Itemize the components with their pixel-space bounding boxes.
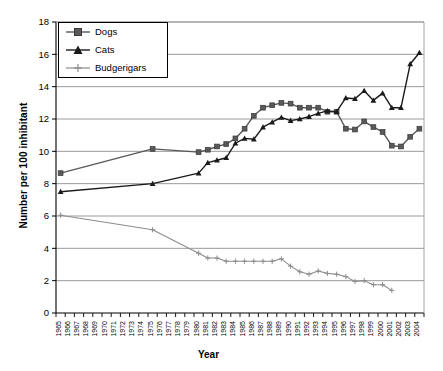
legend-item-dogs: Dogs <box>59 23 167 41</box>
x-tick-label: 1969 <box>91 321 98 337</box>
legend-item-budgerigars: Budgerigars <box>59 59 167 77</box>
x-tick-label: 1965 <box>55 321 62 337</box>
data-point <box>389 288 394 293</box>
x-tick-label: 1967 <box>73 321 80 337</box>
data-point <box>297 105 302 110</box>
x-tick-label: 2002 <box>395 321 402 337</box>
data-point <box>196 150 201 155</box>
cats-series-key-icon <box>65 43 91 57</box>
data-point <box>362 278 367 283</box>
x-tick-label: 1987 <box>257 321 264 337</box>
data-point <box>233 136 238 141</box>
x-tick-label: 1982 <box>211 321 218 337</box>
x-tick-label: 2001 <box>386 321 393 337</box>
y-tick-label: 16 <box>38 49 49 60</box>
data-point <box>399 144 404 149</box>
x-tick-label: 1971 <box>110 321 117 337</box>
x-tick-label: 1996 <box>340 321 347 337</box>
x-tick-label: 1991 <box>294 321 301 337</box>
legend-label-cats: Cats <box>95 45 115 55</box>
data-point <box>380 90 386 95</box>
x-tick-label: 1990 <box>285 321 292 337</box>
y-tick-label: 12 <box>38 113 49 124</box>
data-point <box>150 227 155 232</box>
data-point <box>233 259 238 264</box>
data-point <box>352 279 357 284</box>
x-axis-title-wrap: Year <box>0 349 443 360</box>
series-line <box>61 103 420 173</box>
x-tick-label: 1973 <box>128 321 135 337</box>
budgerigars-series-key-icon <box>65 61 91 75</box>
data-point <box>306 272 311 277</box>
data-point <box>215 144 220 149</box>
data-point <box>279 114 285 119</box>
line-chart: 024681012141618 196519661967196819691970… <box>0 0 443 371</box>
y-tick-label: 8 <box>44 178 49 189</box>
data-point <box>242 259 247 264</box>
x-tick-label: 1970 <box>101 321 108 337</box>
y-axis-title: Number per 100 inhibitant <box>18 81 29 251</box>
data-point <box>288 101 293 106</box>
dogs-series-key-icon <box>65 25 91 39</box>
x-tick-label: 1978 <box>174 321 181 337</box>
series-dogs <box>58 100 422 175</box>
data-point <box>261 105 266 110</box>
data-point <box>58 171 63 176</box>
x-tick-label: 1997 <box>349 321 356 337</box>
x-axis-ticks <box>56 313 424 317</box>
x-axis-title: Year <box>198 349 219 360</box>
legend-item-cats: Cats <box>59 41 167 59</box>
x-tick-label: 1989 <box>275 321 282 337</box>
data-point <box>251 259 256 264</box>
y-tick-label: 18 <box>38 16 49 27</box>
x-tick-label: 1999 <box>367 321 374 337</box>
y-tick-label: 10 <box>38 146 49 157</box>
x-tick-label: 1976 <box>156 321 163 337</box>
x-tick-label: 1995 <box>331 321 338 337</box>
data-point <box>205 147 210 152</box>
y-axis-tick-labels: 024681012141618 <box>38 16 49 318</box>
data-point <box>270 259 275 264</box>
legend-label-budgerigars: Budgerigars <box>95 63 146 73</box>
data-point <box>270 103 275 108</box>
data-point <box>214 255 219 260</box>
y-tick-label: 2 <box>44 275 49 286</box>
data-point <box>389 143 394 148</box>
data-point <box>334 272 339 277</box>
x-tick-label: 1979 <box>183 321 190 337</box>
data-point <box>58 213 63 218</box>
y-axis-title-wrap: Number per 100 inhibitant <box>4 0 26 371</box>
data-point <box>371 282 376 287</box>
x-tick-label: 1994 <box>321 321 328 337</box>
data-point <box>196 251 201 256</box>
data-point <box>380 282 385 287</box>
legend-label-dogs: Dogs <box>95 27 117 37</box>
data-point <box>371 125 376 130</box>
x-tick-label: 2004 <box>413 321 420 337</box>
data-point <box>307 105 312 110</box>
data-point <box>279 100 284 105</box>
series-line <box>61 215 392 290</box>
x-tick-label: 1975 <box>147 321 154 337</box>
x-tick-label: 1977 <box>165 321 172 337</box>
legend: Dogs Cats Budgerigars <box>58 22 168 78</box>
x-tick-label: 1992 <box>303 321 310 337</box>
data-point <box>224 142 229 147</box>
data-point <box>150 147 155 152</box>
y-tick-label: 6 <box>44 210 49 221</box>
x-tick-label: 1998 <box>358 321 365 337</box>
x-tick-label: 1966 <box>64 321 71 337</box>
data-point <box>242 126 247 131</box>
y-tick-label: 0 <box>44 307 49 318</box>
data-point <box>408 134 413 139</box>
x-tick-label: 1993 <box>312 321 319 337</box>
x-tick-label: 1985 <box>239 321 246 337</box>
data-point <box>343 126 348 131</box>
data-point <box>316 268 321 273</box>
x-tick-label: 1968 <box>82 321 89 337</box>
x-tick-label: 1983 <box>220 321 227 337</box>
x-tick-label: 1972 <box>119 321 126 337</box>
x-tick-label: 1984 <box>229 321 236 337</box>
data-point <box>316 105 321 110</box>
x-axis-tick-labels: 1965196619671968196919701971197219731974… <box>55 321 421 337</box>
